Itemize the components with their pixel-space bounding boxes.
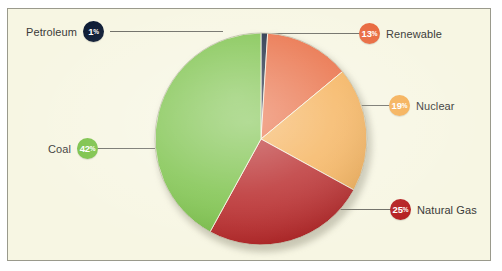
pie-badge-renewable-value: 13 bbox=[362, 28, 372, 39]
pie-badge-natural-gas: 25% bbox=[390, 199, 411, 220]
chart-panel: Petroleum 1% 13% Renewable 19% Nuclear 2… bbox=[7, 8, 491, 261]
pie-label-nuclear-text: Nuclear bbox=[416, 100, 455, 112]
pie-badge-coal-symbol: % bbox=[90, 145, 96, 152]
pie-slices-svg bbox=[153, 31, 369, 247]
pie-label-petroleum-text: Petroleum bbox=[26, 26, 77, 38]
pie-label-natural-gas-text: Natural Gas bbox=[417, 204, 477, 216]
pie-badge-coal-value: 42 bbox=[80, 143, 90, 154]
pie-badge-renewable-symbol: % bbox=[372, 30, 378, 37]
chart-canvas: Petroleum 1% 13% Renewable 19% Nuclear 2… bbox=[0, 0, 502, 271]
pie-label-renewable[interactable]: 13% Renewable bbox=[359, 23, 442, 44]
pie-label-renewable-text: Renewable bbox=[386, 28, 442, 40]
pie-label-coal-text: Coal bbox=[48, 143, 71, 155]
pie-label-natural-gas[interactable]: 25% Natural Gas bbox=[390, 199, 477, 220]
pie-badge-natural-gas-symbol: % bbox=[403, 206, 409, 213]
pie-badge-nuclear: 19% bbox=[389, 95, 410, 116]
pie-badge-coal: 42% bbox=[77, 138, 98, 159]
pie-badge-petroleum: 1% bbox=[83, 21, 104, 42]
pie-badge-nuclear-value: 19 bbox=[392, 100, 402, 111]
pie-badge-natural-gas-value: 25 bbox=[393, 204, 403, 215]
pie-label-nuclear[interactable]: 19% Nuclear bbox=[389, 95, 455, 116]
pie-chart bbox=[153, 31, 369, 247]
pie-badge-nuclear-symbol: % bbox=[402, 102, 408, 109]
pie-sheen-overlay bbox=[155, 33, 367, 245]
pie-badge-renewable: 13% bbox=[359, 23, 380, 44]
pie-label-petroleum[interactable]: Petroleum 1% bbox=[26, 21, 104, 42]
pie-badge-petroleum-symbol: % bbox=[93, 28, 99, 35]
pie-label-coal[interactable]: Coal 42% bbox=[48, 138, 98, 159]
leader-line-coal bbox=[93, 148, 155, 149]
